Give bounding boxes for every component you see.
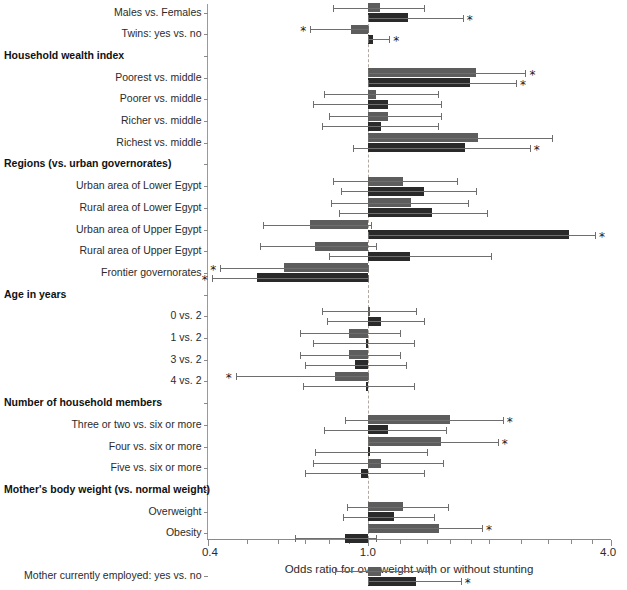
y-axis-tick bbox=[204, 403, 208, 404]
confidence-interval bbox=[368, 581, 461, 582]
significance-star: * bbox=[226, 375, 232, 381]
ci-cap-high bbox=[424, 5, 425, 12]
row-label: Twins: yes vs. no bbox=[122, 28, 202, 39]
ci-cap-high bbox=[530, 145, 531, 152]
confidence-interval bbox=[339, 213, 487, 214]
ci-cap-high bbox=[368, 275, 369, 282]
ci-cap-high bbox=[461, 578, 462, 585]
x-axis-tick bbox=[471, 540, 472, 544]
section-header: Household wealth index bbox=[4, 50, 124, 61]
ci-cap-low bbox=[322, 123, 323, 130]
row-label: Rural area of Lower Egypt bbox=[80, 202, 202, 213]
confidence-interval bbox=[236, 376, 368, 377]
row-label: 3 vs. 2 bbox=[171, 354, 202, 365]
y-axis-tick bbox=[204, 121, 208, 122]
ci-cap-low bbox=[322, 308, 323, 315]
row-label: Four vs. six or more bbox=[109, 441, 202, 452]
confidence-interval bbox=[341, 191, 476, 192]
ci-cap-low bbox=[263, 222, 264, 229]
row-label: Five vs. six or more bbox=[110, 462, 201, 473]
y-axis-tick bbox=[204, 468, 208, 469]
ci-cap-low bbox=[329, 253, 330, 260]
confidence-interval bbox=[305, 473, 424, 474]
row-label: Urban area of Lower Egypt bbox=[76, 180, 202, 191]
x-axis-line bbox=[207, 539, 611, 540]
confidence-interval bbox=[347, 507, 447, 508]
ci-cap-low bbox=[313, 101, 314, 108]
x-axis-tick bbox=[427, 540, 428, 544]
row-label: 1 vs. 2 bbox=[171, 332, 202, 343]
confidence-interval bbox=[220, 268, 368, 269]
y-axis-tick bbox=[204, 576, 208, 577]
ci-cap-low bbox=[313, 460, 314, 467]
significance-star: * bbox=[465, 580, 471, 586]
x-axis-tick bbox=[278, 540, 279, 544]
x-axis-tick bbox=[305, 540, 306, 544]
ci-cap-low bbox=[220, 265, 221, 272]
ci-cap-low bbox=[333, 178, 334, 185]
y-axis-tick bbox=[204, 381, 208, 382]
section-header: Age in years bbox=[4, 289, 66, 300]
ci-cap-high bbox=[487, 210, 488, 217]
ci-cap-low bbox=[368, 525, 369, 532]
x-axis-tick bbox=[571, 540, 572, 544]
y-axis-tick bbox=[204, 295, 208, 296]
y-axis-line bbox=[207, 4, 208, 539]
confidence-interval bbox=[313, 343, 414, 344]
ci-cap-low bbox=[260, 243, 261, 250]
y-axis-tick bbox=[204, 316, 208, 317]
y-axis-tick bbox=[204, 34, 208, 35]
confidence-interval bbox=[345, 420, 502, 421]
ci-cap-low bbox=[300, 352, 301, 359]
ci-cap-high bbox=[443, 460, 444, 467]
ci-cap-low bbox=[212, 275, 213, 282]
row-label: Males vs. Females bbox=[114, 7, 202, 18]
ci-cap-high bbox=[368, 373, 369, 380]
significance-star: * bbox=[393, 38, 399, 44]
significance-star: * bbox=[300, 28, 306, 34]
x-axis-tick bbox=[329, 540, 330, 544]
x-axis-title: Odds ratio for overweight with or withou… bbox=[285, 563, 534, 575]
section-header: Number of household members bbox=[4, 397, 162, 408]
ci-cap-low bbox=[368, 15, 369, 22]
ci-cap-low bbox=[324, 91, 325, 98]
confidence-interval bbox=[368, 138, 552, 139]
confidence-interval bbox=[368, 442, 498, 443]
ci-cap-high bbox=[476, 188, 477, 195]
significance-star: * bbox=[210, 267, 216, 273]
ci-cap-high bbox=[389, 36, 390, 43]
ci-cap-low bbox=[313, 340, 314, 347]
ci-cap-high bbox=[595, 232, 596, 239]
significance-star: * bbox=[529, 72, 535, 78]
confidence-interval bbox=[300, 355, 399, 356]
ci-cap-high bbox=[371, 222, 372, 229]
row-label: Obesity bbox=[166, 527, 202, 538]
x-axis-tick-label: 1.0 bbox=[360, 546, 376, 558]
ci-cap-high bbox=[441, 113, 442, 120]
y-axis-tick bbox=[204, 13, 208, 14]
y-axis-tick bbox=[204, 425, 208, 426]
confidence-interval bbox=[368, 18, 463, 19]
ci-cap-high bbox=[463, 15, 464, 22]
ci-cap-low bbox=[310, 26, 311, 33]
y-axis-tick bbox=[204, 99, 208, 100]
section-header: Mother's body weight (vs. normal weight) bbox=[4, 484, 210, 495]
significance-star: * bbox=[486, 527, 492, 533]
ci-cap-low bbox=[315, 449, 316, 456]
ci-cap-low bbox=[368, 232, 369, 239]
y-axis-tick bbox=[204, 512, 208, 513]
confidence-interval bbox=[331, 203, 468, 204]
ci-cap-low bbox=[305, 470, 306, 477]
y-axis-tick bbox=[204, 338, 208, 339]
ci-cap-low bbox=[345, 417, 346, 424]
confidence-interval bbox=[300, 333, 399, 334]
significance-star: * bbox=[534, 147, 540, 153]
confidence-interval bbox=[368, 528, 482, 529]
row-label: Frontier governorates bbox=[101, 267, 201, 278]
significance-star: * bbox=[502, 441, 508, 447]
confidence-interval bbox=[329, 116, 441, 117]
confidence-interval bbox=[327, 321, 425, 322]
confidence-interval bbox=[305, 365, 405, 366]
x-axis-tick-label: 4.0 bbox=[600, 546, 616, 558]
row-label: Rural area of Upper Egypt bbox=[80, 245, 202, 256]
